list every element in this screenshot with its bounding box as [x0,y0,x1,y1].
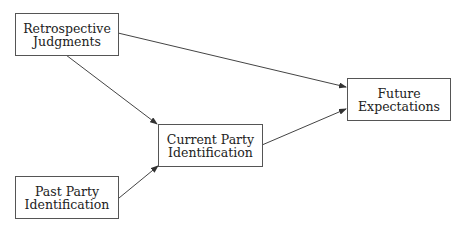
node-label-line1: Future [377,87,420,100]
node-current-party-identification: Current Party Identification [158,124,263,167]
node-label-line1: Past Party [35,185,99,198]
node-label-line2: Identification [168,146,253,159]
edge-retrospective-to-current [66,55,157,124]
node-label-line2: Identification [25,198,110,211]
edge-past-to-current [119,166,158,198]
node-retrospective-judgments: Retrospective Judgments [15,13,119,56]
node-past-party-identification: Past Party Identification [15,176,119,219]
node-label-line1: Retrospective [23,22,111,35]
edge-retrospective-to-future [118,33,346,87]
node-label-line1: Current Party [167,133,254,146]
node-future-expectations: Future Expectations [347,78,451,121]
node-label-line2: Expectations [358,100,440,113]
edge-current-to-future [262,109,346,145]
node-label-line2: Judgments [33,35,101,48]
